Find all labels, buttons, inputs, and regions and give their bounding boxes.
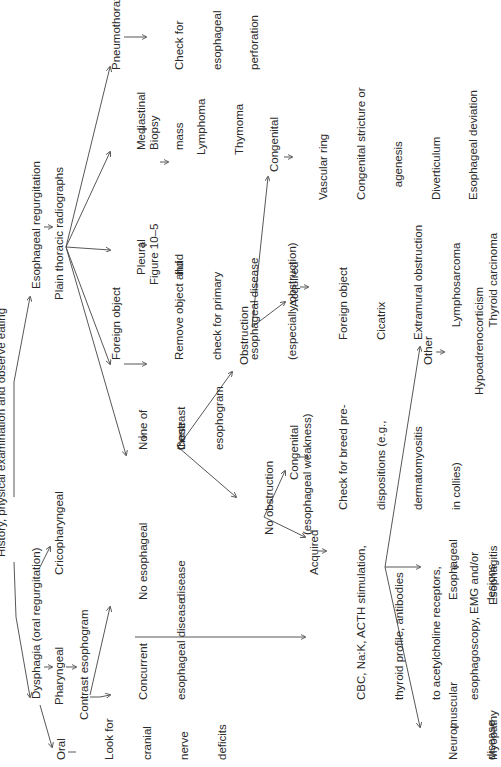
node-other: Other <box>422 336 435 365</box>
flowchart-canvas: History, physical examination and observ… <box>0 0 501 767</box>
node-biopsy: Biopsy <box>148 115 161 150</box>
esophageal-lesions-list: Esophagitis Spirocerca lupi Nonobstructi… <box>462 519 501 606</box>
node-oral: Oral <box>55 738 68 760</box>
node-acquired-obstruction: Acquired <box>288 262 301 307</box>
node-foreign-object: Foreign object <box>110 287 123 360</box>
title-history-exam: History, physical examination and observ… <box>0 308 8 557</box>
node-figure-reference: Figure 10–5 <box>148 224 161 285</box>
node-pharyngeal: Pharyngeal <box>53 647 66 705</box>
node-acquired-weakness: Acquired <box>308 530 321 575</box>
node-pneumothorax: Pneumothorax <box>110 0 123 70</box>
node-dysphagia: Dysphagia (oral regurgitation) <box>30 548 43 700</box>
node-obstruction: Obstruction <box>238 306 251 365</box>
node-check-perforation: Check for esophageal perforation <box>148 11 286 70</box>
congenital-obstruction-list: Vascular ring Congenital stricture or ag… <box>292 88 501 201</box>
node-lymphoma-thymoma: Lymphoma Thymoma <box>170 99 270 155</box>
node-contrast-esophogram-2: Contrast esophogram <box>150 386 250 450</box>
node-congenital-obstruction: Congenital <box>268 117 281 172</box>
node-look-cranial-nerve: Look for cranial nerve deficits <box>78 718 253 760</box>
node-congenital-weakness: Congenital <box>288 425 301 480</box>
node-no-esophageal-disease: No esophageal disease <box>112 523 212 600</box>
node-contrast-esophogram-1: Contrast esophogram <box>78 609 91 720</box>
node-cricopharyngeal: Cricopharyngeal <box>53 491 66 575</box>
node-esophageal-regurgitation: Esophageal regurgitation <box>30 161 43 289</box>
node-concurrent-disease: Concurrent esophageal disease <box>112 598 212 700</box>
node-breed-predispositions: Check for breed pre- dispositions (e.g.,… <box>312 405 487 510</box>
other-list: Hypoadrenocorticism Hyperkalemia Lead in… <box>448 287 501 395</box>
node-plain-radiographs: Plain thoracic radiographs <box>53 167 66 300</box>
neuromuscular-list: Myopathy Neuropathy Myasthenia gravis Hy… <box>462 667 501 760</box>
